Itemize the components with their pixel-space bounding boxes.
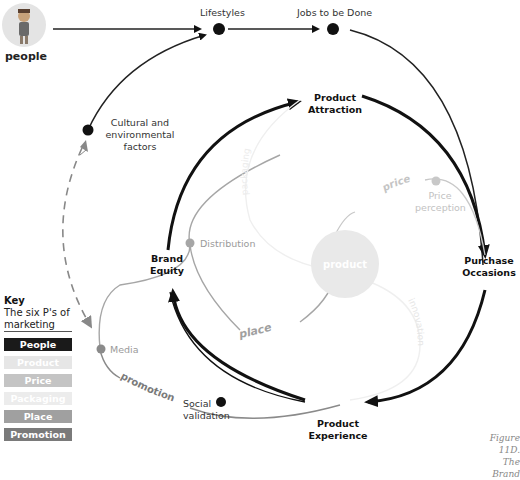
- key-item-promotion: Promotion: [4, 428, 72, 441]
- purchase-occasions-label: Purchase Occasions: [458, 255, 520, 279]
- key-legend: People Product Price Packaging Place Pro…: [4, 338, 72, 446]
- product-center-label: product: [323, 259, 367, 270]
- cultural-factors-label: Cultural and environmental factors: [100, 117, 180, 153]
- key-item-product: Product: [4, 356, 72, 369]
- svg-text:packaging: packaging: [239, 147, 252, 195]
- brand-equity-label: Brand Equity: [145, 253, 189, 277]
- jobs-to-be-done-label: Jobs to be Done: [297, 7, 372, 19]
- distribution-label: Distribution: [200, 238, 255, 250]
- key-item-packaging: Packaging: [4, 392, 72, 405]
- key-item-place: Place: [4, 410, 72, 423]
- product-experience-label: Product Experience: [305, 418, 371, 442]
- lifestyles-label: Lifestyles: [200, 7, 245, 19]
- svg-text:place: place: [237, 321, 274, 342]
- media-label: Media: [110, 344, 139, 356]
- people-label: people: [5, 50, 47, 63]
- svg-text:promotion: promotion: [119, 370, 176, 403]
- key-divider: [4, 331, 72, 332]
- figure-caption: Figure 11D. The Brand: [474, 432, 520, 480]
- product-attraction-label: Product Attraction: [305, 92, 365, 116]
- price-perception-label: Price perception: [415, 190, 465, 214]
- social-validation-label: Social validation: [183, 398, 230, 422]
- svg-text:price: price: [380, 173, 412, 194]
- key-item-people: People: [4, 338, 72, 351]
- key-subtitle: The six P's of marketing: [4, 307, 84, 331]
- svg-text:innovation: innovation: [406, 297, 426, 347]
- key-item-price: Price: [4, 374, 72, 387]
- key-title: Key: [4, 295, 25, 306]
